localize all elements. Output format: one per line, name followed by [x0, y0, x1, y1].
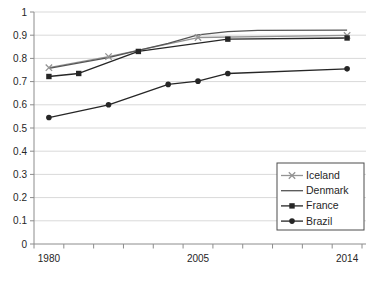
y-axis-label-0.4: 0.4	[13, 146, 27, 157]
series-marker-france-1980	[46, 74, 51, 79]
legend-sample-marker-france	[289, 203, 294, 208]
legend-sample-marker-brazil	[289, 218, 295, 224]
series-marker-france-1995	[136, 49, 141, 54]
y-axis-label-0.5: 0.5	[13, 123, 27, 134]
y-axis-label-1: 1	[21, 7, 27, 18]
series-marker-brazil-2005	[195, 78, 201, 84]
x-axis-label-2005: 2005	[187, 253, 210, 264]
series-marker-brazil-1990	[106, 102, 112, 108]
x-axis-label-1980: 1980	[38, 253, 61, 264]
legend-label-brazil: Brazil	[306, 215, 332, 227]
hdi-trends-line-chart: 10.90.80.70.60.50.40.30.20.1019802005201…	[0, 0, 372, 287]
y-axis-label-0.2: 0.2	[13, 192, 27, 203]
y-axis-label-0.1: 0.1	[13, 215, 27, 226]
y-axis-label-0.7: 0.7	[13, 76, 27, 87]
y-axis-label-0.9: 0.9	[13, 30, 27, 41]
y-axis-label-0.3: 0.3	[13, 169, 27, 180]
legend-label-france: France	[306, 199, 339, 211]
y-axis-label-0.6: 0.6	[13, 99, 27, 110]
series-marker-france-2014	[344, 35, 349, 40]
legend-label-iceland: Iceland	[306, 169, 340, 181]
chart-canvas: 10.90.80.70.60.50.40.30.20.1019802005201…	[0, 0, 372, 287]
legend-label-denmark: Denmark	[306, 184, 349, 196]
series-marker-brazil-1980	[46, 115, 52, 121]
x-axis-label-2014: 2014	[336, 253, 359, 264]
series-marker-brazil-2014	[344, 66, 350, 72]
series-marker-brazil-2000	[165, 82, 171, 88]
y-axis-label-0: 0	[21, 239, 27, 250]
series-marker-france-2010	[225, 36, 230, 41]
series-marker-brazil-2010	[225, 71, 231, 77]
y-axis-label-0.8: 0.8	[13, 53, 27, 64]
series-marker-france-1985	[76, 71, 81, 76]
